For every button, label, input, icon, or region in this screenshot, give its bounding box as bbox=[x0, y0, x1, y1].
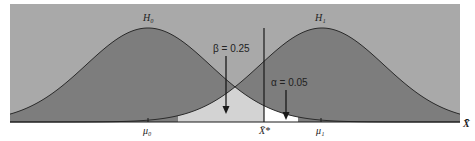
mu1-label: μ₁ bbox=[315, 125, 325, 136]
h1-label: H₁ bbox=[314, 12, 326, 23]
alpha-label: α = 0.05 bbox=[271, 77, 308, 88]
xstar-label: X̄* bbox=[258, 125, 270, 136]
h0-label: H₀ bbox=[142, 12, 154, 23]
hypothesis-test-chart: H₀ H₁ β = 0.25 α = 0.05 μ₀ X̄* μ₁ X̄ bbox=[0, 0, 475, 141]
beta-label: β = 0.25 bbox=[213, 43, 250, 54]
x-axis-label: X̄ bbox=[462, 118, 470, 129]
mu0-label: μ₀ bbox=[142, 125, 152, 136]
